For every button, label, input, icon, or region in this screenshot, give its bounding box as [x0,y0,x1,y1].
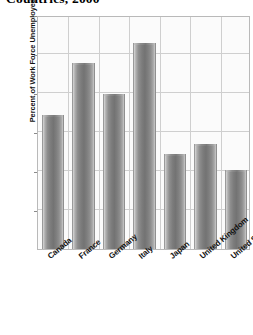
bar [194,144,217,249]
chart-title: Countries, 2000 [6,0,246,7]
bar-top-edge [134,43,155,45]
gridline-vertical [221,17,222,249]
y-axis-title: Percent of Work Force Unemployed [28,0,37,141]
bar [72,63,95,249]
plot-area [37,16,250,250]
bar-top-edge [73,63,94,65]
bar-top-edge [226,170,247,172]
bar-top-edge [104,94,125,96]
gridline-vertical [99,17,100,249]
bar [133,43,156,249]
gridline-vertical [68,17,69,249]
bar [103,94,126,249]
gridline-vertical [129,17,130,249]
gridline-vertical [190,17,191,249]
bar-top-edge [165,154,186,156]
bar-top-edge [43,115,64,117]
bar [42,115,65,249]
bar-top-edge [195,144,216,146]
gridline-vertical [160,17,161,249]
bar [164,154,187,249]
